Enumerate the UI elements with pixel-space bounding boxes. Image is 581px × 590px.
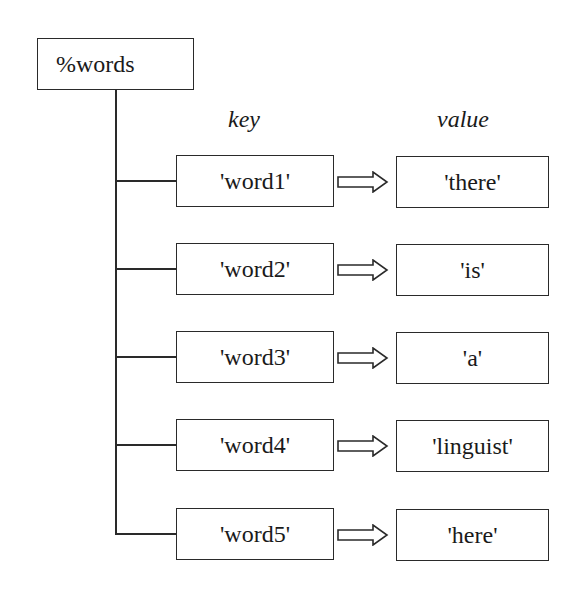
key-label: 'word4' [220,432,290,459]
key-label: 'word2' [220,256,290,283]
key-column-header: key [228,106,260,133]
tree-trunk-line [115,89,117,534]
key-node: 'word2' [176,243,334,295]
arrow-right-icon [337,259,389,281]
value-node: 'a' [396,332,549,384]
hash-root-node: %words [37,38,194,90]
branch-line [115,444,177,446]
key-label: 'word1' [220,168,290,195]
arrow-right-icon [337,435,389,457]
key-node: 'word4' [176,419,334,471]
key-node: 'word3' [176,331,334,383]
branch-line [115,356,177,358]
value-label: 'linguist' [432,433,513,460]
arrow-right-icon [337,347,389,369]
branch-line [115,180,177,182]
value-node: 'here' [396,509,549,561]
hash-name-label: %words [56,51,135,78]
value-node: 'linguist' [396,420,549,472]
key-node: 'word5' [176,508,334,560]
value-label: 'a' [463,345,482,372]
key-label: 'word3' [220,344,290,371]
value-label: 'is' [460,257,485,284]
branch-line [115,533,177,535]
key-label: 'word5' [220,521,290,548]
value-node: 'there' [396,156,549,208]
arrow-right-icon [337,171,389,193]
value-node: 'is' [396,244,549,296]
value-label: 'here' [448,522,498,549]
value-label: 'there' [444,169,501,196]
arrow-right-icon [337,524,389,546]
value-column-header: value [437,106,489,133]
branch-line [115,268,177,270]
key-node: 'word1' [176,155,334,207]
